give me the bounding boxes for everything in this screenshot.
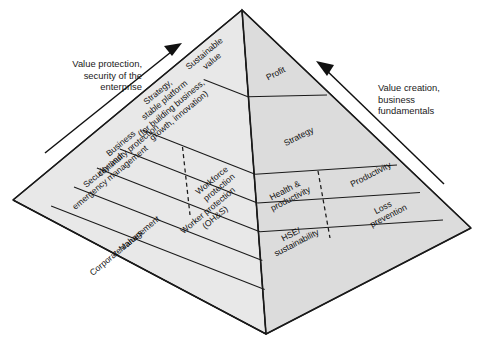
pyramid-final: Sustainable value Strategy, stable platf… <box>0 0 478 346</box>
pyramid-diagram: Sustainable value Strategy, stable platf… <box>0 0 478 346</box>
left-annotation-text: Value protection, security of the enterp… <box>6 58 142 93</box>
diagram-canvas: Sustainable value Strategy, stable platf… <box>0 0 478 346</box>
right-annotation-text: Value creation, business fundamentals <box>378 82 474 117</box>
